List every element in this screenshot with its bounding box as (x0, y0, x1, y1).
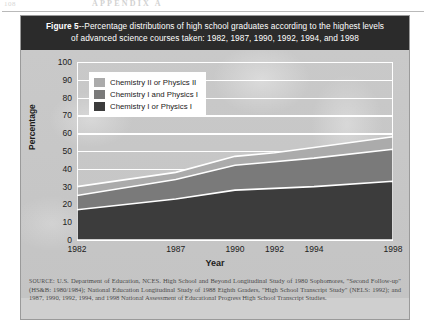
chart-legend: Chemistry II or Physics IIChemistry I an… (89, 72, 206, 116)
y-tick-label-10: 10 (63, 217, 72, 227)
y-tick-label-20: 20 (63, 199, 72, 209)
x-tick-label-1994: 1994 (305, 244, 324, 254)
legend-label: Chemistry II or Physics II (110, 78, 196, 87)
figure-source-note: SOURCE: U.S. Department of Education, NC… (21, 274, 409, 319)
x-axis-title: Year (21, 258, 409, 268)
figure-title-line-1: --Percentage distributions of high schoo… (79, 21, 384, 31)
source-text: U.S. Department of Education, NCES. High… (29, 277, 401, 301)
page-running-head-text: APPENDIX A (92, 0, 163, 8)
figure-plot-area: Percentage 0102030405060708090100 198219… (21, 50, 409, 298)
x-tick-label-1990: 1990 (226, 244, 245, 254)
y-tick-label-100: 100 (58, 57, 72, 67)
legend-swatch-icon (94, 78, 105, 87)
x-tick-label-1987: 1987 (166, 244, 185, 254)
legend-label: Chemistry I and Physics I (110, 90, 198, 99)
x-tick-label-1998: 1998 (384, 244, 403, 254)
gridline-0: 0 (77, 240, 393, 241)
y-tick-label-60: 60 (63, 128, 72, 138)
x-tick-label-1992: 1992 (265, 244, 284, 254)
page-folio-number: 108 (4, 0, 16, 8)
figure-title-bar: Figure 5--Percentage distributions of hi… (21, 16, 409, 50)
x-tick-label-1982: 1982 (68, 244, 87, 254)
y-tick-label-50: 50 (63, 146, 72, 156)
page-header-rule (2, 11, 424, 12)
figure-container: Figure 5--Percentage distributions of hi… (20, 15, 410, 320)
y-tick-label-70: 70 (63, 110, 72, 120)
legend-item: Chemistry II or Physics II (94, 76, 198, 88)
source-label: SOURCE: (29, 278, 55, 284)
y-tick-label-30: 30 (63, 182, 72, 192)
legend-label: Chemistry I or Physics I (110, 102, 192, 111)
y-tick-label-40: 40 (63, 164, 72, 174)
y-tick-label-80: 80 (63, 93, 72, 103)
legend-item: Chemistry I and Physics I (94, 88, 198, 100)
figure-number: Figure 5 (46, 21, 79, 31)
y-tick-label-90: 90 (63, 75, 72, 85)
legend-swatch-icon (94, 102, 105, 111)
legend-item: Chemistry I or Physics I (94, 100, 198, 112)
y-axis-title: Percentage (27, 104, 37, 150)
legend-swatch-icon (94, 90, 105, 99)
figure-title-line-2: of advanced science courses taken: 1982,… (71, 33, 359, 43)
